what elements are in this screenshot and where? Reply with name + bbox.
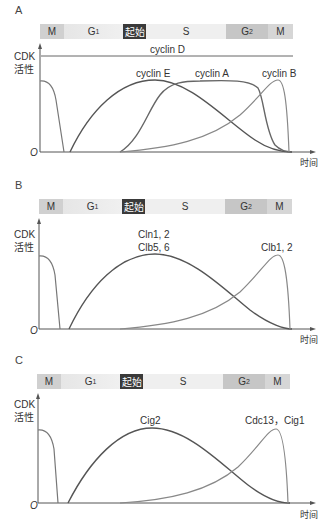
- plot-area-a: cyclin D cyclin E cyclin A cyclin B: [0, 0, 329, 175]
- curve-cyclin-a: [120, 81, 292, 152]
- label-cig2: Cig2: [140, 415, 161, 426]
- label-cdc13-cig1: Cdc13，Cig1: [245, 415, 305, 426]
- label-cyclin-b: cyclin B: [262, 68, 297, 79]
- label-cyclin-e: cyclin E: [136, 68, 171, 79]
- curve-cyclin-b: [120, 80, 289, 152]
- label-clb56: Clb5, 6: [138, 242, 170, 253]
- plot-area-c: Cig2 Cdc13，Cig1: [0, 350, 329, 525]
- panel-b: B M G1 起始 S G2 M CDK 活性 O 时间 Cln1, 2 Clb…: [0, 175, 329, 350]
- curve-cig2: [68, 428, 290, 503]
- plot-area-b: Cln1, 2 Clb5, 6 Clb1, 2: [0, 175, 329, 350]
- curve-clb12: [120, 255, 290, 329]
- panel-c: C M G1 起始 S G2 M CDK 活性 O 时间 Cig2 Cdc13，…: [0, 350, 329, 525]
- panel-a: A M G1 起始 S G2 M CDK 活性 O 时间 cyclin D cy…: [0, 0, 329, 175]
- label-clb12: Clb1, 2: [261, 242, 293, 253]
- curve-cdc13-cig1: [120, 429, 288, 503]
- curve-cln-clb56: [69, 254, 292, 329]
- label-cyclin-d: cyclin D: [150, 44, 185, 55]
- label-cyclin-a: cyclin A: [195, 68, 229, 79]
- label-cln12: Cln1, 2: [138, 229, 170, 240]
